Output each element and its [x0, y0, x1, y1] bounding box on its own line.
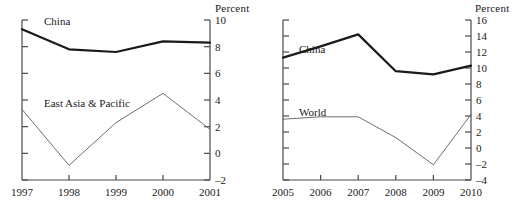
x-axis-tick-label: 2009: [422, 187, 444, 198]
x-axis-tick-label: 2000: [152, 187, 174, 198]
chart-panel-left: Percent 1086420–219971998199920002001Chi…: [0, 0, 260, 209]
y-axis-tick-label: 10: [476, 63, 487, 74]
y-axis-tick-label: 16: [476, 15, 487, 26]
series-annotation-china: China: [299, 44, 325, 55]
y-axis-tick-label: 6: [476, 95, 482, 106]
y-axis-tick-label: –2: [476, 159, 487, 170]
y-axis-tick-label: 4: [476, 111, 482, 122]
x-axis-tick-label: 2005: [272, 187, 294, 198]
y-axis-tick-label: 4: [215, 95, 221, 106]
y-axis-tick-label: –2: [215, 175, 226, 186]
y-axis-tick-label: 0: [215, 148, 221, 159]
y-axis-tick-label: 2: [476, 127, 482, 138]
x-axis-tick-label: 2010: [460, 187, 482, 198]
x-axis-tick-label: 2008: [385, 187, 407, 198]
y-axis-tick-label: 12: [476, 47, 487, 58]
y-axis-tick-label: 6: [215, 68, 221, 79]
y-axis-tick-label: 14: [476, 31, 487, 42]
x-axis-tick-label: 1999: [105, 187, 127, 198]
x-axis-tick-label: 2007: [347, 187, 369, 198]
series-line-world: [283, 114, 471, 164]
y-axis-unit-label: Percent: [215, 3, 249, 14]
y-axis-unit-label: Percent: [475, 3, 509, 14]
x-axis-tick-label: 1998: [58, 187, 80, 198]
series-annotation-china: China: [44, 16, 70, 27]
series-line-china: [22, 29, 210, 52]
chart-panel-right: Percent 1614121086420–2–4200520062007200…: [261, 0, 521, 209]
x-axis-tick-label: 1997: [11, 187, 33, 198]
two-panel-line-chart-figure: Percent 1086420–219971998199920002001Chi…: [0, 0, 521, 209]
y-axis-tick-label: –4: [476, 175, 487, 186]
series-annotation-east-asia-pacific: East Asia & Pacific: [44, 98, 130, 109]
x-axis-tick-label: 2001: [199, 187, 221, 198]
y-axis-tick-label: 2: [215, 121, 221, 132]
x-axis-tick-label: 2006: [310, 187, 332, 198]
series-annotation-world: World: [299, 107, 326, 118]
y-axis-tick-label: 8: [476, 79, 482, 90]
y-axis-tick-label: 0: [476, 143, 482, 154]
y-axis-tick-label: 10: [215, 15, 226, 26]
y-axis-tick-label: 8: [215, 41, 221, 52]
